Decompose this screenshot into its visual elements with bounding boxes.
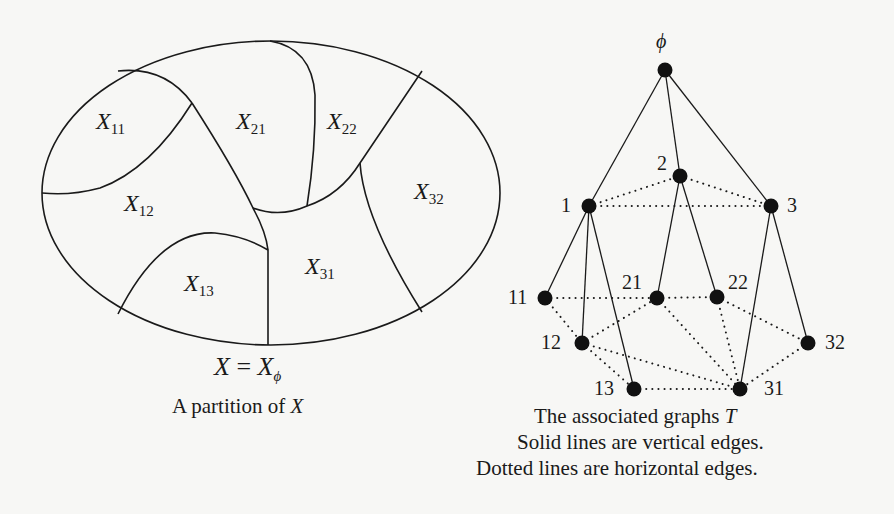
node-label-32: 32 [825, 331, 845, 354]
vertical-edge-phi-3 [665, 70, 771, 206]
horizontal-edge-22-31 [717, 297, 740, 389]
horizontal-edge-12-21 [582, 298, 657, 343]
graph-node-22 [710, 290, 725, 305]
vertical-edge-1-13 [589, 206, 634, 389]
vertical-edge-3-32 [771, 206, 808, 343]
node-label-2: 2 [657, 152, 667, 175]
node-label-1: 1 [561, 194, 571, 217]
graph-node-13 [627, 382, 642, 397]
graph-node-3 [764, 199, 779, 214]
graph-node-12 [575, 336, 590, 351]
node-label-12: 12 [541, 331, 561, 354]
node-label-21: 21 [622, 271, 642, 294]
node-label-11: 11 [508, 286, 527, 309]
node-label-13: 13 [594, 377, 614, 400]
horizontal-edge-2-3 [680, 176, 771, 206]
horizontal-edge-21-22 [657, 297, 717, 298]
graph-node-11 [538, 291, 553, 306]
graph-node-21 [650, 291, 665, 306]
vertical-edge-3-31 [740, 206, 771, 389]
graph-node-31 [733, 382, 748, 397]
graph-node-1 [582, 199, 597, 214]
graph-node-32 [801, 336, 816, 351]
caption-solid-lines: Solid lines are vertical edges. [517, 429, 764, 455]
figure: X11 X12 X13 X21 X22 X31 X32 X = Xϕ A par… [0, 0, 894, 514]
horizontal-edge-21-31 [657, 298, 740, 389]
vertical-edge-phi-1 [589, 70, 665, 206]
horizontal-edge-22-32 [717, 297, 808, 343]
node-label-phi: ϕ [656, 30, 666, 53]
node-label-3: 3 [787, 194, 797, 217]
vertical-edge-1-11 [545, 206, 589, 298]
vertical-edge-2-22 [680, 176, 717, 297]
vertical-edge-2-21 [657, 176, 680, 298]
caption-graph-title: The associated graphs T [534, 403, 736, 429]
vertical-edge-1-12 [582, 206, 589, 343]
node-label-22: 22 [728, 271, 748, 294]
caption-dotted-lines: Dotted lines are horizontal edges. [476, 455, 758, 481]
graph-node-2 [673, 169, 688, 184]
node-label-31: 31 [764, 377, 784, 400]
graph-node-phi [658, 63, 673, 78]
